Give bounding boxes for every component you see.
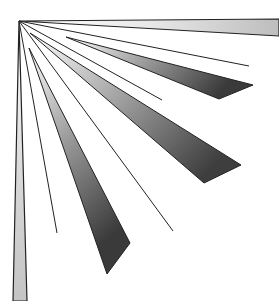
ray-graphic [0,0,279,301]
left-band [13,21,27,301]
wedge-1 [66,37,253,99]
top-band [19,19,279,36]
ray-graphic-svg [0,0,279,301]
